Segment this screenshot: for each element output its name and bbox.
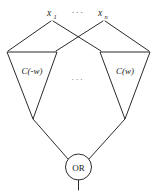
wire-x1-to-left-module	[8, 21, 51, 51]
wire-xn-to-left-module	[56, 21, 103, 51]
input-label-last: x	[97, 8, 103, 18]
wire-x1-to-right-module	[53, 21, 101, 51]
input-ellipsis: ···	[72, 7, 85, 17]
input-label-first-subscript: 1	[54, 13, 57, 20]
input-label-first: x	[46, 8, 52, 18]
circuit-canvas: x 1 ··· x n C(-w) C(w) ··· OR	[0, 0, 156, 191]
left-module-triangle	[7, 52, 57, 119]
modules-ellipsis: ···	[72, 75, 85, 84]
circuit-diagram: x 1 ··· x n C(-w) C(w) ··· OR	[0, 0, 156, 191]
right-module	[100, 52, 150, 119]
input-wire-group	[8, 21, 149, 51]
left-module-label: C(-w)	[22, 66, 43, 76]
wire-xn-to-right-module	[105, 21, 149, 51]
or-gate-label: OR	[72, 163, 85, 173]
wire-right-module-to-or	[89, 119, 125, 159]
left-module	[7, 52, 57, 119]
input-label-last-subscript: n	[105, 13, 108, 20]
right-module-triangle	[100, 52, 150, 119]
wire-left-module-to-or	[33, 119, 68, 159]
output-wire-group	[33, 119, 125, 159]
right-module-label: C(w)	[116, 66, 134, 76]
